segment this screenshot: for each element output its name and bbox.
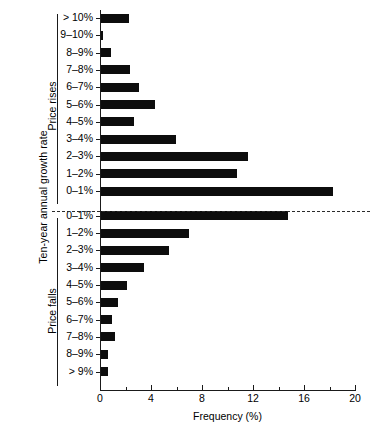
bar-row: > 9% — [100, 364, 355, 381]
y-axis-tick-label: > 10% — [63, 11, 93, 23]
bar-row: 8–9% — [100, 45, 355, 62]
y-axis-tick — [96, 354, 100, 355]
bar — [101, 169, 237, 178]
x-axis-tick — [151, 385, 152, 390]
bar — [101, 83, 139, 92]
x-axis-title: Frequency (%) — [100, 410, 355, 422]
y-axis-tick-label: 4–5% — [66, 115, 93, 127]
y-axis-tick — [96, 337, 100, 338]
x-axis-minor-tick — [330, 387, 331, 390]
bar — [101, 65, 130, 74]
bar — [101, 263, 144, 272]
y-axis-tick — [96, 122, 100, 123]
x-axis-tick — [304, 385, 305, 390]
bar-row: 6–7% — [100, 79, 355, 96]
y-axis-tick — [96, 35, 100, 36]
y-axis-tick-label: 8–9% — [66, 347, 93, 359]
y-axis-tick — [96, 156, 100, 157]
bar — [101, 350, 108, 359]
x-axis-tick — [253, 385, 254, 390]
bar-row: 6–7% — [100, 312, 355, 329]
bar-row: 1–2% — [100, 166, 355, 183]
y-axis-tick — [96, 233, 100, 234]
bar — [101, 135, 176, 144]
y-axis-tick-label: 4–5% — [66, 278, 93, 290]
x-axis-minor-tick — [126, 387, 127, 390]
bar-row: 2–3% — [100, 148, 355, 165]
x-axis-tick-label: 4 — [148, 392, 154, 404]
bar — [101, 187, 333, 196]
price-rises-falls-divider — [52, 211, 370, 212]
bar-row: 2–3% — [100, 242, 355, 259]
y-axis-tick — [96, 268, 100, 269]
x-axis-tick-label: 16 — [298, 392, 310, 404]
bar — [101, 14, 129, 23]
y-axis-tick-label: 1–2% — [66, 226, 93, 238]
y-axis-tick — [96, 191, 100, 192]
y-axis-tick — [96, 18, 100, 19]
x-axis-tick-label: 12 — [247, 392, 259, 404]
x-axis-tick-label: 20 — [349, 392, 361, 404]
bar-row: 3–4% — [100, 131, 355, 148]
y-axis-tick — [96, 285, 100, 286]
y-axis-tick-label: 3–4% — [66, 261, 93, 273]
bar — [101, 117, 134, 126]
x-axis-tick — [355, 385, 356, 390]
bar — [101, 246, 169, 255]
bar-row: 4–5% — [100, 114, 355, 131]
bar — [101, 367, 108, 376]
bar — [101, 31, 103, 40]
y-axis-tick — [96, 320, 100, 321]
bar-row: 7–8% — [100, 62, 355, 79]
bar — [101, 229, 189, 238]
y-axis-tick-label: 7–8% — [66, 330, 93, 342]
y-axis-tick — [96, 372, 100, 373]
y-axis-tick — [96, 174, 100, 175]
y-axis-tick — [96, 302, 100, 303]
y-axis-tick-label: 2–3% — [66, 243, 93, 255]
bar — [101, 48, 111, 57]
y-axis-tick-label: > 9% — [69, 365, 93, 377]
y-axis-tick — [96, 53, 100, 54]
bar-row: 7–8% — [100, 329, 355, 346]
group-label-price-falls: Price falls — [46, 255, 58, 367]
y-axis-tick-label: 1–2% — [66, 167, 93, 179]
bar — [101, 298, 118, 307]
y-axis-tick — [96, 250, 100, 251]
x-axis-minor-tick — [177, 387, 178, 390]
y-axis-tick — [96, 216, 100, 217]
bar-row: 8–9% — [100, 346, 355, 363]
bar-row: 5–6% — [100, 294, 355, 311]
y-axis-tick — [96, 139, 100, 140]
bar-row: > 10% — [100, 10, 355, 27]
y-axis-tick — [96, 87, 100, 88]
bar-row: 4–5% — [100, 277, 355, 294]
bar — [101, 211, 288, 220]
plot-area: > 10%9–10%8–9%7–8%6–7%5–6%4–5%3–4%2–3%1–… — [100, 10, 355, 390]
y-axis-tick-label: 6–7% — [66, 80, 93, 92]
y-axis-tick-label: 5–6% — [66, 295, 93, 307]
y-axis-tick-label: 6–7% — [66, 313, 93, 325]
bar-row: 9–10% — [100, 27, 355, 44]
y-axis-tick-label: 2–3% — [66, 149, 93, 161]
bar-row: 5–6% — [100, 97, 355, 114]
y-axis-tick-label: 9–10% — [60, 28, 93, 40]
bar-row: 3–4% — [100, 260, 355, 277]
y-axis-tick — [96, 70, 100, 71]
x-axis-minor-tick — [279, 387, 280, 390]
x-axis-tick-label: 0 — [97, 392, 103, 404]
y-axis-tick-label: 7–8% — [66, 63, 93, 75]
y-axis-tick-label: 5–6% — [66, 98, 93, 110]
y-axis-tick-label: 8–9% — [66, 46, 93, 58]
x-axis-tick — [100, 385, 101, 390]
x-axis-tick — [202, 385, 203, 390]
x-axis-minor-tick — [228, 387, 229, 390]
bar — [101, 100, 155, 109]
y-axis-tick-label: 3–4% — [66, 132, 93, 144]
bar-row: 0–1% — [100, 183, 355, 200]
bar-chart: Ten-year annual growth rate Price rises … — [0, 0, 372, 433]
bar — [101, 152, 248, 161]
x-axis-tick-label: 8 — [199, 392, 205, 404]
bar-row: 1–2% — [100, 225, 355, 242]
group-label-price-rises: Price rises — [46, 42, 58, 170]
